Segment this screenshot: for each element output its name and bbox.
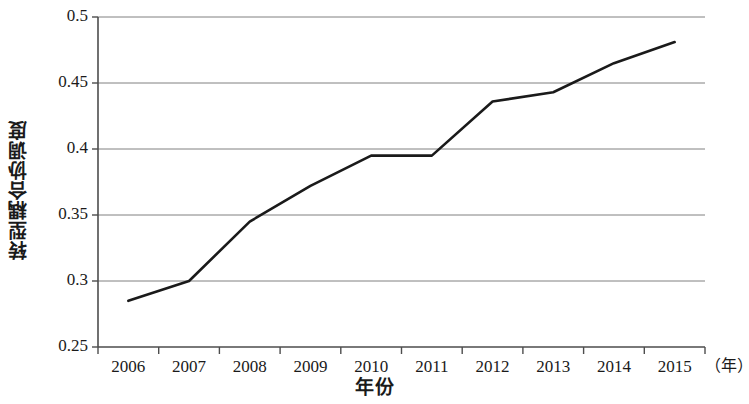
y-tick-label: 0.3 <box>30 270 88 290</box>
y-axis-title-text: 转型耦合协调度 <box>4 120 31 260</box>
x-tick-group <box>98 347 705 354</box>
data-series-line <box>128 42 674 301</box>
gridline-group <box>98 17 705 281</box>
y-tick-label: 0.35 <box>30 204 88 224</box>
chart-figure: 转型耦合协调度 年份 0.50.450.40.350.30.25 2006200… <box>0 0 749 404</box>
y-tick-label: 0.4 <box>30 138 88 158</box>
x-tick-label: 2014 <box>584 357 644 377</box>
x-tick-label: 2010 <box>341 357 401 377</box>
x-tick-label: 2011 <box>402 357 462 377</box>
y-axis-title: 转型耦合协调度 <box>2 60 32 320</box>
y-tick-label: 0.45 <box>30 72 88 92</box>
y-tick-label: 0.25 <box>30 336 88 356</box>
x-tick-label: 2015 <box>645 357 705 377</box>
x-tick-label: 2007 <box>159 357 219 377</box>
x-tick-label: 2012 <box>463 357 523 377</box>
x-tick-label: 2006 <box>98 357 158 377</box>
y-tick-label: 0.5 <box>30 6 88 26</box>
y-tick-group <box>92 17 98 347</box>
x-tick-label: 2008 <box>220 357 280 377</box>
line-chart-canvas <box>0 0 749 404</box>
x-tick-label: 2009 <box>280 357 340 377</box>
x-tick-label: 2013 <box>523 357 583 377</box>
x-axis-unit-note: （年） <box>705 352 749 376</box>
